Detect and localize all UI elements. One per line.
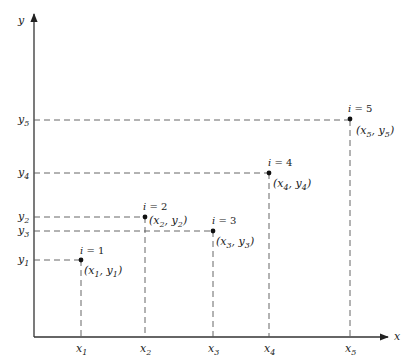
coord-label: (x5, y5) bbox=[356, 124, 394, 139]
point-marker bbox=[143, 215, 148, 220]
y-tick-label: y2 bbox=[17, 210, 29, 225]
coord-label: (x4, y4) bbox=[273, 177, 311, 192]
y-tick-label: y1 bbox=[17, 253, 29, 268]
data-point-5: i = 5 (x5, y5) y5 x5 bbox=[17, 103, 394, 357]
index-label: i = 4 bbox=[268, 157, 292, 168]
point-marker bbox=[211, 229, 216, 234]
index-label: i = 3 bbox=[212, 215, 236, 226]
index-label: i = 1 bbox=[80, 245, 104, 256]
x-tick-label: x4 bbox=[264, 342, 275, 357]
coord-label: (x1, y1) bbox=[84, 264, 122, 279]
point-marker bbox=[267, 171, 272, 176]
x-tick-label: x2 bbox=[140, 342, 151, 357]
y-tick-label: y4 bbox=[17, 166, 29, 181]
data-point-4: i = 4 (x4, y4) y4 x4 bbox=[17, 157, 311, 357]
coord-label: (x2, y2) bbox=[149, 214, 187, 229]
data-points-diagram: y x i = 1 (x1, y1) y1 x1 i = 2 (x2, y2) … bbox=[0, 0, 417, 363]
x-tick-label: x1 bbox=[76, 342, 87, 357]
x-tick-label: x5 bbox=[345, 342, 356, 357]
index-label: i = 5 bbox=[348, 103, 372, 114]
y-tick-label: y3 bbox=[17, 224, 29, 239]
y-tick-label: y5 bbox=[17, 113, 29, 128]
point-marker bbox=[79, 258, 84, 263]
data-point-1: i = 1 (x1, y1) y1 x1 bbox=[17, 245, 122, 357]
x-axis-label: x bbox=[394, 330, 401, 343]
coord-label: (x3, y3) bbox=[216, 235, 254, 250]
y-axis-label: y bbox=[17, 14, 25, 27]
index-label: i = 2 bbox=[143, 201, 167, 212]
point-marker bbox=[348, 117, 353, 122]
data-point-3: i = 3 (x3, y3) y3 x3 bbox=[17, 215, 254, 357]
data-point-2: i = 2 (x2, y2) y2 x2 bbox=[17, 201, 187, 357]
x-tick-label: x3 bbox=[208, 342, 219, 357]
